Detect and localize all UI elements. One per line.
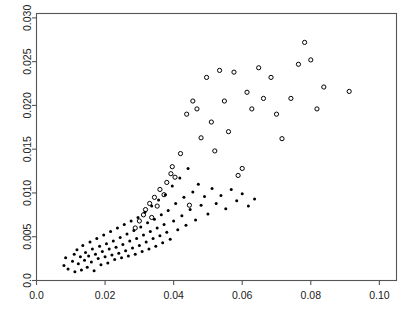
x-tick-label: 0.0 bbox=[29, 289, 44, 301]
data-point-filled bbox=[130, 219, 133, 222]
data-point-filled bbox=[64, 256, 67, 259]
data-point-filled bbox=[174, 202, 177, 205]
data-point-filled bbox=[106, 261, 109, 264]
data-point-filled bbox=[95, 237, 98, 240]
data-point-filled bbox=[115, 246, 118, 249]
data-point-filled bbox=[109, 230, 112, 233]
data-point-filled bbox=[189, 208, 192, 211]
data-point-filled bbox=[235, 199, 238, 202]
data-point-filled bbox=[113, 258, 116, 261]
data-point-filled bbox=[105, 242, 108, 245]
data-point-filled bbox=[88, 240, 91, 243]
data-point-filled bbox=[167, 209, 170, 212]
data-point-filled bbox=[80, 269, 83, 272]
data-point-filled bbox=[128, 240, 131, 243]
data-point-filled bbox=[171, 184, 174, 187]
data-point-filled bbox=[211, 187, 214, 190]
data-point-filled bbox=[180, 214, 183, 217]
data-point-filled bbox=[75, 248, 78, 251]
y-tick-label: 0.0 bbox=[21, 273, 33, 288]
data-point-filled bbox=[97, 257, 100, 260]
data-point-filled bbox=[73, 253, 76, 256]
data-point-filled bbox=[219, 194, 222, 197]
y-tick-label: 0.010 bbox=[21, 180, 33, 206]
data-point-filled bbox=[215, 202, 218, 205]
data-point-filled bbox=[124, 249, 127, 252]
data-point-filled bbox=[87, 254, 90, 257]
data-point-filled bbox=[158, 234, 161, 237]
plot-background bbox=[0, 0, 407, 317]
data-point-filled bbox=[120, 256, 123, 259]
data-point-filled bbox=[206, 212, 209, 215]
data-point-filled bbox=[79, 255, 82, 258]
data-point-filled bbox=[142, 233, 145, 236]
data-point-filled bbox=[169, 238, 172, 241]
y-tick-label: 0.005 bbox=[21, 223, 33, 249]
x-tick-label: 0.08 bbox=[301, 289, 322, 301]
data-point-filled bbox=[135, 237, 138, 240]
data-point-filled bbox=[84, 251, 87, 254]
x-tick-label: 0.02 bbox=[95, 289, 116, 301]
data-point-filled bbox=[121, 243, 124, 246]
data-point-filled bbox=[230, 188, 233, 191]
data-point-filled bbox=[203, 195, 206, 198]
data-point-filled bbox=[119, 236, 122, 239]
data-point-filled bbox=[156, 226, 159, 229]
data-point-filled bbox=[165, 231, 168, 234]
data-point-filled bbox=[224, 207, 227, 210]
data-point-filled bbox=[172, 219, 175, 222]
scatter-plot-figure: 0.00.020.040.060.080.10 0.00.0050.0100.0… bbox=[0, 0, 407, 317]
y-tick-label: 0.015 bbox=[21, 136, 33, 162]
data-point-filled bbox=[127, 254, 130, 257]
data-point-filled bbox=[154, 245, 157, 248]
data-point-filled bbox=[77, 262, 80, 265]
data-point-filled bbox=[247, 205, 250, 208]
data-point-filled bbox=[163, 223, 166, 226]
data-point-filled bbox=[241, 192, 244, 195]
data-point-filled bbox=[98, 245, 101, 248]
data-point-filled bbox=[81, 244, 84, 247]
data-point-filled bbox=[187, 167, 190, 170]
data-point-filled bbox=[93, 269, 96, 272]
data-point-filled bbox=[67, 268, 70, 271]
data-point-filled bbox=[94, 253, 97, 256]
data-point-filled bbox=[104, 255, 107, 258]
scatter-plot-svg: 0.00.020.040.060.080.10 0.00.0050.0100.0… bbox=[0, 0, 407, 317]
y-tick-label: 0.030 bbox=[21, 5, 33, 31]
data-point-filled bbox=[73, 270, 76, 273]
data-point-filled bbox=[152, 237, 155, 240]
data-point-filled bbox=[138, 244, 141, 247]
data-point-filled bbox=[108, 247, 111, 250]
data-point-filled bbox=[141, 250, 144, 253]
data-point-filled bbox=[116, 226, 119, 229]
data-point-filled bbox=[194, 219, 197, 222]
data-point-filled bbox=[139, 226, 142, 229]
data-point-filled bbox=[191, 191, 194, 194]
data-point-filled bbox=[200, 204, 203, 207]
data-point-filled bbox=[99, 263, 102, 266]
data-point-filled bbox=[90, 261, 93, 264]
data-point-filled bbox=[71, 260, 74, 263]
data-point-filled bbox=[149, 230, 152, 233]
data-point-filled bbox=[110, 254, 113, 257]
x-tick-label: 0.10 bbox=[369, 289, 390, 301]
y-tick-label: 0.020 bbox=[21, 92, 33, 118]
data-point-filled bbox=[101, 250, 104, 253]
data-point-filled bbox=[123, 223, 126, 226]
data-point-filled bbox=[134, 253, 137, 256]
data-point-filled bbox=[83, 259, 86, 262]
data-point-filled bbox=[131, 247, 134, 250]
data-point-filled bbox=[160, 213, 163, 216]
data-point-filled bbox=[161, 241, 164, 244]
data-point-filled bbox=[176, 228, 179, 231]
data-point-filled bbox=[91, 247, 94, 250]
data-point-filled bbox=[126, 233, 129, 236]
y-tick-label: 0.025 bbox=[21, 48, 33, 74]
data-point-filled bbox=[178, 177, 181, 180]
data-point-filled bbox=[157, 198, 160, 201]
data-point-filled bbox=[102, 233, 105, 236]
data-point-filled bbox=[117, 252, 120, 255]
data-point-filled bbox=[253, 198, 256, 201]
data-point-filled bbox=[147, 247, 150, 250]
x-tick-label: 0.06 bbox=[232, 289, 253, 301]
